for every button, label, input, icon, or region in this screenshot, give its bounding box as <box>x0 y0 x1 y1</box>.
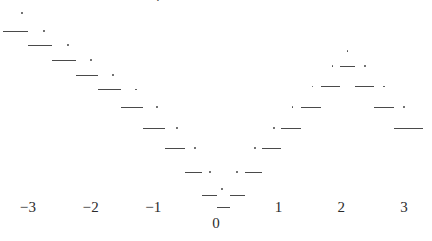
step-segment <box>262 148 281 149</box>
step-endpoint-dot <box>221 188 223 190</box>
step-endpoint-dot <box>67 44 69 46</box>
step-endpoint-dot <box>292 106 294 108</box>
step-endpoint-dot <box>312 86 314 88</box>
step-endpoint-dot <box>254 147 256 149</box>
step-segment <box>245 172 263 173</box>
x-tick-label-neg3: −3 <box>20 199 36 216</box>
step-endpoint-dot <box>21 12 23 14</box>
step-endpoint-dot <box>273 127 275 129</box>
step-segment <box>340 66 355 67</box>
step-endpoint-dot <box>209 171 211 173</box>
step-segment <box>76 75 99 76</box>
step-segment <box>121 107 144 108</box>
step-endpoint-dot <box>383 86 385 88</box>
step-segment <box>165 148 185 149</box>
step-endpoint-dot <box>236 171 238 173</box>
step-endpoint-dot <box>194 147 196 149</box>
step-segment <box>394 128 423 129</box>
x-tick-label-neg1: −1 <box>145 199 161 216</box>
x-tick-label-3: 3 <box>400 199 408 216</box>
step-endpoint-dot <box>176 127 178 129</box>
step-endpoint-dot <box>156 106 158 108</box>
step-segment <box>28 45 52 46</box>
step-endpoint-dot <box>364 65 366 67</box>
step-segment <box>52 60 76 61</box>
x-tick-label-neg2: −2 <box>82 199 98 216</box>
step-segment <box>98 89 121 90</box>
step-segment <box>301 107 321 108</box>
step-endpoint-dot <box>43 30 45 32</box>
step-endpoint-dot <box>112 74 114 76</box>
step-segment <box>321 86 340 87</box>
step-endpoint-dot <box>135 89 137 91</box>
step-endpoint-dot <box>90 59 92 61</box>
step-segment <box>374 107 394 108</box>
step-segment <box>185 172 203 173</box>
step-segment <box>143 128 164 129</box>
x-tick-label-2: 2 <box>337 199 345 216</box>
step-segment <box>355 86 374 87</box>
step-endpoint-dot <box>332 65 334 67</box>
step-segment <box>230 195 245 196</box>
step-function-figure: 2 −3−2−10123 <box>0 0 432 241</box>
step-segment <box>217 207 230 208</box>
step-segment <box>281 128 301 129</box>
x-tick-label-1: 1 <box>275 199 283 216</box>
step-segment <box>202 195 217 196</box>
step-endpoint-dot <box>403 106 405 108</box>
x-tick-label-0: 0 <box>212 215 220 232</box>
step-segment <box>3 31 28 32</box>
step-endpoint-dot <box>347 50 349 52</box>
plot-area <box>0 0 432 241</box>
